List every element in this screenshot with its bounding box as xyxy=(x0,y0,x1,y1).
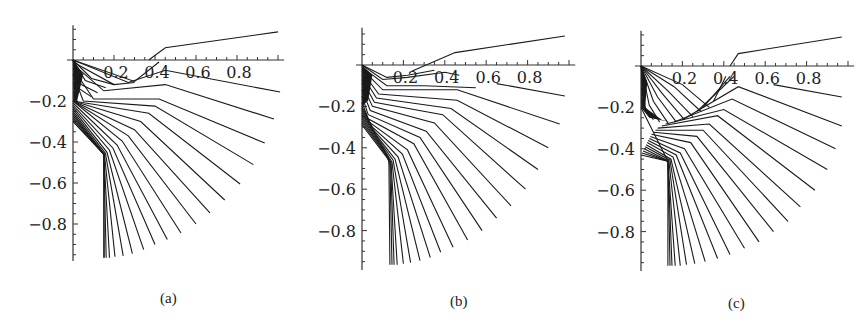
x-tick-label: 0.8 xyxy=(796,69,821,88)
characteristic-line xyxy=(73,105,155,244)
y-tick-label: −0.4 xyxy=(596,140,635,159)
characteristic-line xyxy=(641,155,670,266)
characteristic-line xyxy=(643,151,675,266)
characteristic-line xyxy=(644,149,680,266)
characteristic-line xyxy=(662,116,815,191)
x-tick-label: 0.6 xyxy=(475,68,500,87)
characteristic-line xyxy=(362,115,411,263)
characteristic-line xyxy=(730,37,842,66)
y-tick-label: −0.4 xyxy=(28,133,67,152)
panel-a-plot: 0.20.40.60.8−0.2−0.4−0.6−0.8 xyxy=(28,25,284,261)
y-tick-label: −0.8 xyxy=(596,223,635,242)
characteristic-line xyxy=(73,119,104,257)
characteristic-line xyxy=(73,101,240,184)
characteristic-line xyxy=(73,101,181,233)
x-tick-label: 0.6 xyxy=(185,63,210,82)
characteristic-line xyxy=(362,125,390,265)
y-tick-label: −0.6 xyxy=(28,174,67,193)
figure-plots: 0.20.40.60.8−0.2−0.4−0.6−0.8 0.20.40.60.… xyxy=(0,0,864,327)
characteristic-line xyxy=(666,110,828,170)
panel-c-plot: 0.20.40.60.8−0.2−0.4−0.6−0.8 xyxy=(596,31,854,271)
y-tick-label: −0.2 xyxy=(596,98,635,117)
characteristic-line xyxy=(73,111,123,256)
x-tick-label: 0.2 xyxy=(103,63,128,82)
x-tick-label: 0.4 xyxy=(434,68,459,87)
panel-a-caption: (a) xyxy=(160,290,177,307)
y-tick-label: −0.2 xyxy=(28,92,67,111)
panel-b-caption: (b) xyxy=(450,293,468,310)
y-tick-label: −0.8 xyxy=(317,222,356,241)
panel-b-plot: 0.20.40.60.8−0.2−0.4−0.6−0.8 xyxy=(317,28,575,270)
characteristic-line xyxy=(412,36,565,71)
y-tick-label: −0.6 xyxy=(317,180,356,199)
figure: 0.20.40.60.8−0.2−0.4−0.6−0.8 0.20.40.60.… xyxy=(0,0,864,327)
characteristic-line xyxy=(674,99,836,149)
y-tick-label: −0.6 xyxy=(596,181,635,200)
x-tick-label: 0.8 xyxy=(517,68,542,87)
characteristic-line xyxy=(641,107,668,265)
y-tick-label: −0.4 xyxy=(317,139,356,158)
x-tick-label: 0.2 xyxy=(672,69,697,88)
x-tick-label: 0.6 xyxy=(754,69,779,88)
x-tick-label: 0.4 xyxy=(144,63,169,82)
characteristic-line xyxy=(656,130,789,221)
y-tick-label: −0.8 xyxy=(28,215,67,234)
x-tick-label: 0.4 xyxy=(713,69,738,88)
characteristic-line xyxy=(362,96,482,231)
characteristic-line xyxy=(149,32,278,60)
x-tick-label: 0.2 xyxy=(393,68,418,87)
x-tick-label: 0.8 xyxy=(226,63,251,82)
characteristic-line xyxy=(362,117,403,264)
panel-c-caption: (c) xyxy=(728,295,745,312)
characteristic-line xyxy=(362,106,453,247)
y-tick-label: −0.2 xyxy=(317,97,356,116)
